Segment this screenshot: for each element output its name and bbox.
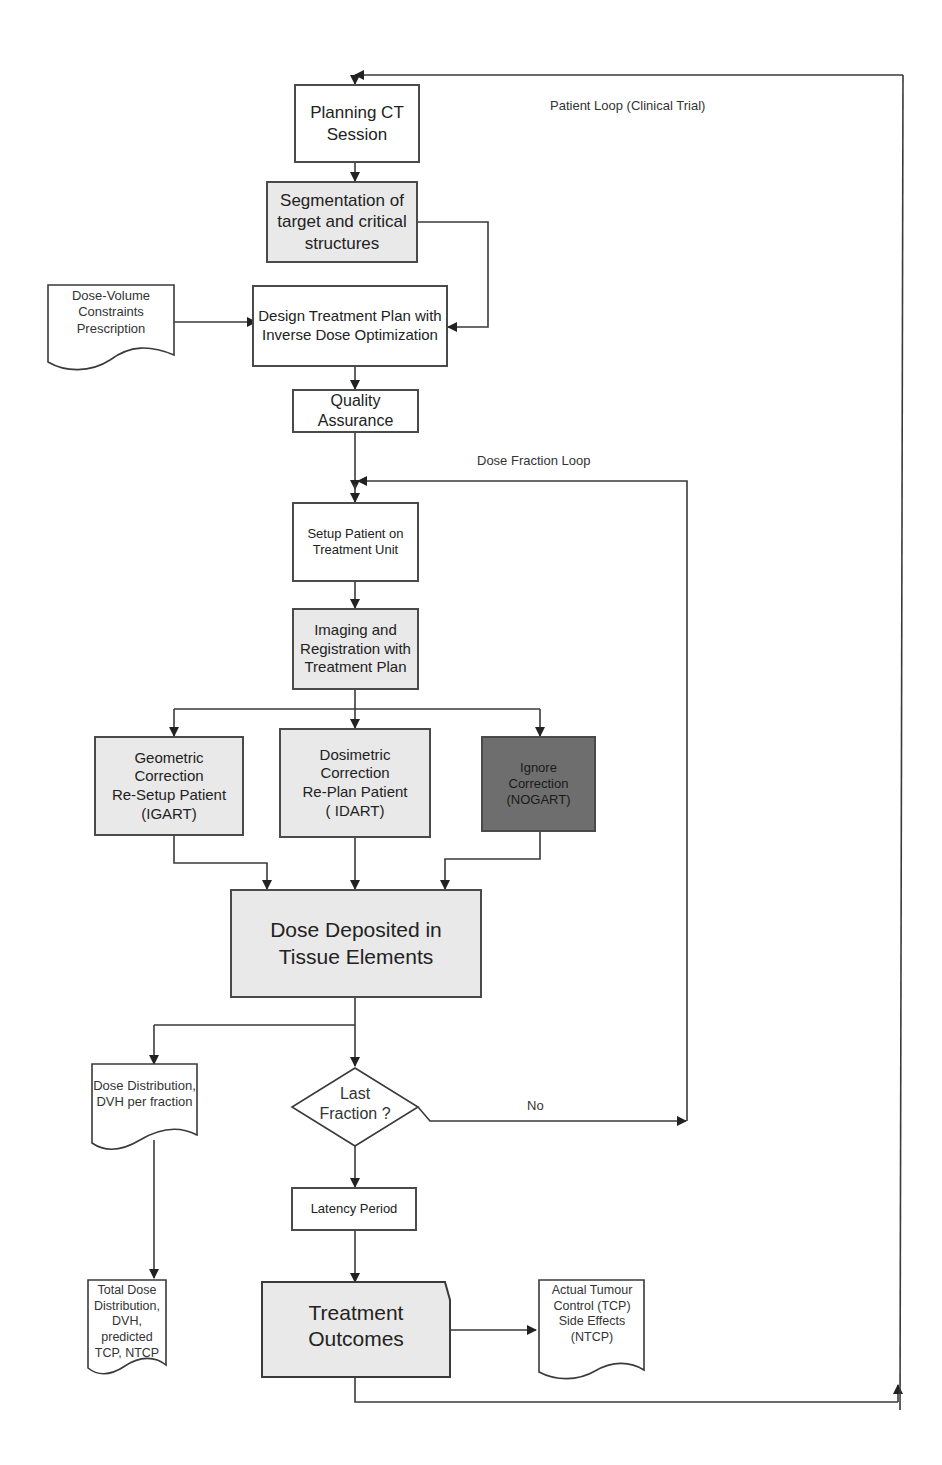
setup-patient-node: Setup Patient on Treatment Unit <box>292 502 419 582</box>
latency-period-node: Latency Period <box>291 1187 417 1231</box>
actual-outcome-document: Actual Tumour Control (TCP) Side Effects… <box>536 1283 648 1346</box>
dosimetric-correction-node: Dosimetric Correction Re-Plan Patient ( … <box>279 728 431 838</box>
patient-loop-label: Patient Loop (Clinical Trial) <box>550 98 705 113</box>
total-dose-document: Total Dose Distribution, DVH, predicted … <box>84 1283 170 1361</box>
treatment-outcomes-node: Treatment Outcomes <box>262 1300 450 1353</box>
connector-lines <box>0 0 942 1465</box>
imaging-registration-node: Imaging and Registration with Treatment … <box>292 608 419 690</box>
dose-fraction-loop-label: Dose Fraction Loop <box>477 453 590 468</box>
no-branch-label: No <box>527 1098 544 1113</box>
planning-ct-node: Planning CT Session <box>294 84 420 163</box>
geometric-correction-node: Geometric Correction Re-Setup Patient (I… <box>94 736 244 836</box>
dose-deposited-node: Dose Deposited in Tissue Elements <box>230 889 482 998</box>
segmentation-node: Segmentation of target and critical stru… <box>266 181 418 263</box>
design-plan-node: Design Treatment Plan with Inverse Dose … <box>252 285 448 367</box>
quality-assurance-node: Quality Assurance <box>292 389 419 433</box>
constraints-document: Dose-Volume Constraints Prescription <box>48 288 174 337</box>
last-fraction-decision: Last Fraction ? <box>300 1084 410 1124</box>
ignore-correction-node: Ignore Correction (NOGART) <box>481 736 596 832</box>
dose-per-fraction-document: Dose Distribution, DVH per fraction <box>92 1078 197 1111</box>
